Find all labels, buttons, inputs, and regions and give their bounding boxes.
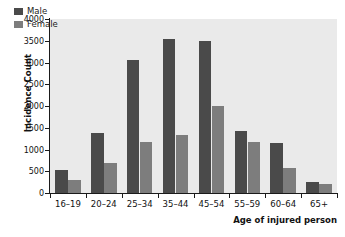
x-tick-label: 35–44 [163,199,189,209]
legend-swatch-icon [14,8,23,15]
bar-group [122,19,158,193]
x-tick-mark [86,194,87,198]
legend-swatch-icon [14,21,23,28]
x-tick-label: 20–24 [91,199,117,209]
x-tick-mark [194,194,195,198]
bar-group [158,19,194,193]
bar-female [140,142,153,193]
x-tick-mark [122,194,123,198]
bar-female [176,135,189,193]
x-tick-mark [337,194,338,198]
bar-chart-figure: Incidence Count 050010001500200025003000… [0,0,345,237]
bar-female [104,163,117,193]
bar-female [248,142,261,193]
bar-male [91,133,104,193]
x-tick-mark [265,194,266,198]
x-tick-label: 55–59 [234,199,260,209]
y-tick-label: 3000 [14,58,44,67]
x-tick-mark [158,194,159,198]
x-tick-label: 25–34 [127,199,153,209]
plot-panel [50,19,337,193]
bar-female [319,184,332,193]
bar-male [306,182,319,193]
bar-male [163,39,176,193]
y-tick-label: 3500 [14,36,44,45]
y-tick-label: 2500 [14,80,44,89]
x-tick-mark [229,194,230,198]
x-tick-mark [50,194,51,198]
bar-group [194,19,230,193]
bar-male [55,170,68,193]
bar-series-container [50,19,337,193]
x-tick-label: 60–64 [270,199,296,209]
bar-male [199,41,212,193]
bar-group [301,19,337,193]
x-axis-tick-labels: 16–1920–2425–3435–4445–5455–5960–6465+ [50,199,337,213]
y-tick-label: 1000 [14,145,44,154]
bar-female [212,106,225,193]
legend-item: Male [14,5,58,17]
legend-item: Female [14,18,58,30]
bar-female [68,180,81,193]
x-axis-tick-marks [50,194,337,198]
y-axis-tick-labels: 05001000150020002500300035004000 [14,19,44,193]
bar-female [283,168,296,193]
legend-label: Male [27,6,47,16]
bar-group [229,19,265,193]
x-tick-mark [301,194,302,198]
x-tick-label: 16–19 [55,199,81,209]
y-tick-label: 2000 [14,102,44,111]
x-tick-label: 45–54 [198,199,224,209]
chart-legend: MaleFemale [14,5,58,31]
bar-group [50,19,86,193]
y-tick-label: 1500 [14,123,44,132]
legend-label: Female [27,19,58,29]
x-axis-title: Age of injured person [233,215,337,225]
bar-group [265,19,301,193]
bar-male [127,60,140,193]
y-tick-label: 500 [14,167,44,176]
y-tick-label: 0 [14,189,44,198]
bar-male [270,143,283,193]
x-tick-label: 65+ [310,199,328,209]
bar-male [235,131,248,193]
bar-group [86,19,122,193]
